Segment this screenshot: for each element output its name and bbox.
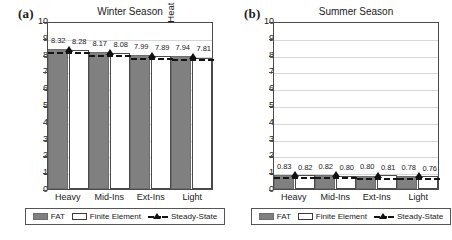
legend-summer: FAT Finite Element Steady-State — [251, 208, 451, 225]
y-axis-title-summer: Heat exchange [kWh/m2] — [164, 0, 176, 50]
legend-label-finite-element: Finite Element — [90, 212, 141, 221]
bar-finite-element — [110, 53, 130, 189]
x-axis-labels-summer: HeavyMid-InsExt-InsLight — [273, 192, 439, 202]
x-axis-category-label: Light — [172, 192, 214, 202]
bar-finite-element — [151, 56, 171, 189]
bar-groups-winter — [48, 23, 212, 189]
legend-item-fat: FAT — [259, 212, 291, 221]
bar-group — [48, 23, 89, 189]
bar-group — [315, 23, 356, 189]
bar-fat — [48, 49, 68, 189]
bar-finite-element — [69, 50, 89, 189]
bar-fat — [130, 55, 150, 189]
bar-fat — [274, 175, 294, 189]
bar-group — [89, 23, 130, 189]
legend-swatch-steady-state-icon — [148, 213, 168, 220]
bar-group — [171, 23, 212, 189]
legend-item-fat: FAT — [33, 212, 65, 221]
x-axis-category-label: Heavy — [273, 192, 315, 202]
x-axis-category-label: Mid-Ins — [315, 192, 357, 202]
chart-title-summer: Summer Season — [273, 6, 439, 17]
panel-summer-season: (b) Summer Season Heat exchange [kWh/m2]… — [226, 0, 452, 240]
legend-label-finite-element: Finite Element — [316, 212, 367, 221]
legend-swatch-fat-icon — [33, 213, 48, 220]
legend-label-steady-state: Steady-State — [171, 212, 217, 221]
x-axis-labels-winter: HeavyMid-InsExt-InsLight — [47, 192, 213, 202]
bar-groups-summer — [274, 23, 438, 189]
y-tick-mark — [43, 190, 47, 191]
x-axis-category-label: Heavy — [47, 192, 89, 202]
bar-fat — [356, 176, 376, 189]
bar-group — [397, 23, 438, 189]
x-axis-category-label: Ext-Ins — [130, 192, 172, 202]
legend-swatch-steady-state-icon — [374, 213, 394, 220]
x-axis-category-label: Light — [398, 192, 440, 202]
legend-item-steady-state: Steady-State — [148, 212, 217, 221]
legend-label-steady-state: Steady-State — [397, 212, 443, 221]
legend-swatch-finite-element-icon — [72, 213, 87, 220]
panel-winter-season: (a) Winter Season Heat exchange [kWh/m2]… — [0, 0, 226, 240]
figure-two-panel-bar-charts: (a) Winter Season Heat exchange [kWh/m2]… — [0, 0, 452, 240]
bar-finite-element — [377, 175, 397, 189]
legend-item-finite-element: Finite Element — [72, 212, 141, 221]
chart-title-winter: Winter Season — [47, 6, 213, 17]
legend-item-finite-element: Finite Element — [298, 212, 367, 221]
plot-area-summer: 0.830.820.820.800.800.810.780.76 — [273, 22, 439, 190]
bar-fat — [171, 56, 191, 189]
bar-group — [274, 23, 315, 189]
bar-fat — [397, 176, 417, 189]
legend-swatch-fat-icon — [259, 213, 274, 220]
plot-area-winter: 8.328.288.178.087.997.897.947.81 — [47, 22, 213, 190]
bar-fat — [315, 175, 335, 189]
bar-fat — [89, 52, 109, 189]
y-tick-mark — [269, 190, 273, 191]
bar-finite-element — [418, 176, 438, 189]
bar-group — [356, 23, 397, 189]
bar-finite-element — [192, 58, 212, 189]
legend-swatch-finite-element-icon — [298, 213, 313, 220]
legend-label-fat: FAT — [51, 212, 65, 221]
legend-item-steady-state: Steady-State — [374, 212, 443, 221]
legend-winter: FAT Finite Element Steady-State — [25, 208, 225, 225]
x-axis-category-label: Ext-Ins — [356, 192, 398, 202]
legend-label-fat: FAT — [277, 212, 291, 221]
x-axis-category-label: Mid-Ins — [89, 192, 131, 202]
bar-finite-element — [295, 175, 315, 189]
bar-finite-element — [336, 176, 356, 189]
